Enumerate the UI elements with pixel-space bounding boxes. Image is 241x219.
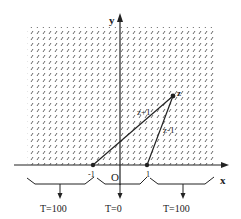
brace-left (27, 177, 94, 184)
y-axis-arrow-icon (117, 13, 123, 22)
down-arrow-right-head-icon (181, 193, 186, 199)
boundary-label-middle: T=0 (105, 203, 122, 214)
point-z-label: z (177, 88, 181, 98)
origin-label: O (111, 171, 119, 183)
segment-z-minus-1-label: z-1 (163, 125, 175, 135)
boundary-label-left: T=100 (40, 203, 67, 214)
brace-middle (97, 177, 147, 184)
half-plane-diagram: y x O -1 1 z z+1 z-1 T=100 T=0 T=100 (0, 0, 241, 219)
x-axis-arrow-icon (221, 162, 229, 168)
point-one (145, 163, 149, 167)
point-z (171, 94, 176, 99)
point-neg-one (91, 163, 95, 167)
x-axis-label: x (220, 174, 226, 186)
boundary-label-right: T=100 (163, 203, 190, 214)
segment-z-plus-1-label: z+1 (137, 107, 151, 117)
down-arrow-middle-head-icon (118, 193, 123, 199)
brace-right (150, 177, 214, 184)
y-axis-label: y (109, 14, 115, 26)
down-arrow-left-head-icon (58, 193, 63, 199)
